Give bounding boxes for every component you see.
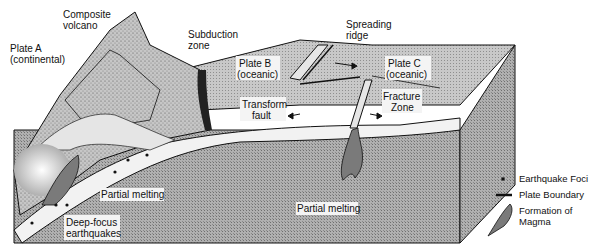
svg-text:Fracture: Fracture (383, 91, 421, 102)
svg-text:Plate B: Plate B (239, 58, 272, 69)
svg-text:Partial melting: Partial melting (101, 189, 164, 200)
svg-text:(continental): (continental) (10, 54, 65, 65)
label-subduction-zone: Subduction zone (188, 29, 238, 51)
label-spreading-ridge: Spreading ridge (346, 19, 392, 41)
svg-text:Subduction: Subduction (188, 29, 238, 40)
legend-label-formation-of-magma: Formation of (519, 205, 573, 216)
svg-text:Transform: Transform (242, 99, 287, 110)
ocean-surface (160, 40, 515, 110)
svg-text:(oceanic): (oceanic) (237, 69, 278, 80)
label-partial-melting-left: Partial melting (100, 188, 164, 201)
svg-text:Plate A: Plate A (10, 43, 42, 54)
svg-text:volcano: volcano (63, 20, 98, 31)
label-transform-fault: Transform fault (240, 97, 287, 121)
label-composite-volcano: Composite volcano (63, 9, 111, 31)
svg-text:(oceanic): (oceanic) (386, 69, 427, 80)
legend-label-earthquake-foci: Earthquake Foci (519, 173, 588, 184)
svg-text:fault: fault (252, 110, 271, 121)
label-plate-b: Plate B (oceanic) (236, 56, 280, 80)
label-deep-focus-earthquakes: Deep-focus earthquakes (64, 215, 121, 240)
label-plate-a: Plate A (continental) (10, 43, 65, 65)
svg-text:Partial melting: Partial melting (297, 203, 360, 214)
svg-text:Zone: Zone (391, 102, 414, 113)
earthquake-foci-icon (501, 177, 505, 181)
svg-text:ridge: ridge (346, 30, 369, 41)
svg-text:earthquakes: earthquakes (66, 228, 121, 239)
svg-text:Composite: Composite (63, 9, 111, 20)
label-fracture-zone: Fracture Zone (382, 89, 422, 113)
plate-tectonics-diagram: Plate A (continental) Composite volcano … (0, 0, 593, 249)
svg-text:Magma: Magma (519, 216, 551, 227)
legend-label-plate-boundary: Plate Boundary (519, 189, 584, 200)
label-plate-c: Plate C (oceanic) (385, 56, 431, 80)
label-partial-melting-center: Partial melting (296, 202, 360, 215)
svg-text:Deep-focus: Deep-focus (66, 217, 117, 228)
svg-text:zone: zone (188, 40, 210, 51)
svg-text:Plate C: Plate C (388, 58, 421, 69)
svg-text:Spreading: Spreading (346, 19, 392, 30)
